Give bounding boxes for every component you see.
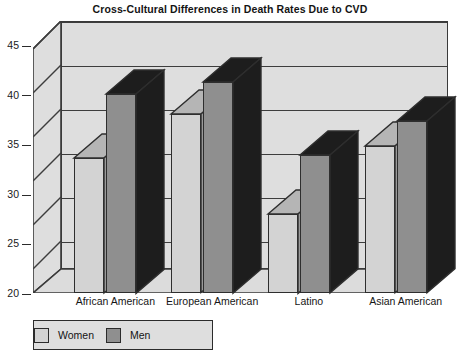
bar-men-european-american (203, 82, 233, 293)
bar-women-european-american (171, 114, 201, 293)
bar-men-african-american (106, 94, 136, 293)
bar-women-african-american (74, 158, 104, 293)
y-tick-mark-45 (22, 46, 31, 47)
x-label-european-american: European American (166, 295, 258, 307)
bar-face (365, 146, 395, 293)
bar-face (203, 82, 233, 293)
y-tick-label-40: 40 (7, 89, 33, 101)
y-tick-mark-25 (22, 244, 31, 245)
legend-item-men: Men (106, 321, 162, 349)
y-tick-mark-30 (22, 195, 31, 196)
x-label-african-american: African American (76, 295, 155, 307)
x-label-latino: Latino (295, 295, 324, 307)
bar-face (300, 155, 330, 293)
legend-label-men: Men (130, 329, 150, 341)
bar-face (268, 214, 298, 293)
bar-face (74, 158, 104, 293)
y-tick-label-45: 45 (7, 39, 33, 51)
bar-face (106, 94, 136, 293)
legend-label-women: Women (58, 329, 94, 341)
y-tick-mark-35 (22, 145, 31, 146)
plot-area: 202530354045 (33, 21, 448, 293)
legend-item-women: Women (34, 321, 106, 349)
y-tick-mark-40 (22, 95, 31, 96)
chart-screenshot: Cross-Cultural Differences in Death Rate… (0, 0, 460, 356)
y-tick-label-35: 35 (7, 138, 33, 150)
bar-face (171, 114, 201, 293)
legend-swatch-men (106, 328, 121, 343)
y-tick-label-30: 30 (7, 188, 33, 200)
bars-layer (33, 21, 448, 293)
chart-title: Cross-Cultural Differences in Death Rate… (0, 3, 460, 15)
y-tick-label-20: 20 (7, 287, 33, 299)
bar-face (397, 121, 427, 293)
y-tick-label-25: 25 (7, 237, 33, 249)
x-label-asian-american: Asian American (369, 295, 442, 307)
bar-women-latino (268, 214, 298, 293)
y-tick-mark-20 (22, 294, 31, 295)
bar-women-asian-american (365, 146, 395, 293)
bar-men-latino (300, 155, 330, 293)
bar-men-asian-american (397, 121, 427, 293)
chart-legend: Women Men (33, 320, 213, 350)
legend-swatch-women (34, 328, 49, 343)
x-axis-labels: African AmericanEuropean AmericanLatinoA… (33, 295, 453, 311)
